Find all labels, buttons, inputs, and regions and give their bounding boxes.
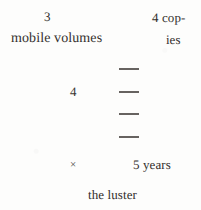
numeral-four: 4: [70, 85, 77, 98]
five-years-text: 5 years: [133, 158, 171, 171]
scanned-page: 3 mobile volumes 4 cop- ies 4 × 5 years …: [0, 0, 201, 210]
dash-rule-3: [119, 113, 139, 115]
dash-rule-2: [119, 91, 139, 93]
multiplication-sign: ×: [70, 160, 76, 171]
dash-rule-1: [119, 68, 139, 70]
copies-line-two: ies: [166, 33, 180, 46]
dash-rule-stack: [119, 62, 143, 148]
numeral-three: 3: [44, 10, 51, 23]
the-luster-text: the luster: [88, 188, 137, 201]
mobile-volumes-text: mobile volumes: [11, 32, 102, 46]
dash-rule-4: [119, 136, 139, 138]
copies-line-one: 4 cop-: [152, 11, 185, 24]
